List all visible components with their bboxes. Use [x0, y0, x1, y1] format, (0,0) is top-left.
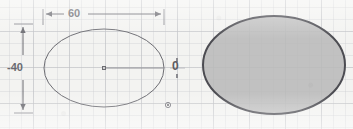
- angle-value-label[interactable]: 0: [172, 60, 179, 72]
- width-dimension-value[interactable]: 60: [68, 8, 80, 19]
- sketch-canvas[interactable]: 60 -40 0: [0, 0, 353, 129]
- height-dimension-value[interactable]: -40: [7, 62, 23, 73]
- width-dimension[interactable]: [43, 9, 164, 25]
